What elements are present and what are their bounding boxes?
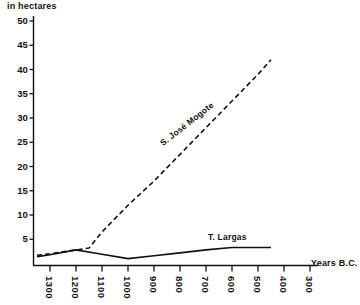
axes	[33, 16, 318, 266]
data-series	[37, 60, 271, 259]
series-line-s-jos-mogote	[37, 60, 271, 255]
series-line-t-largas	[37, 248, 271, 259]
x-axis-ticks	[50, 266, 310, 272]
chart-container: in hectares Years B.C. 51015202530354045…	[0, 0, 360, 305]
plot-area	[0, 0, 360, 305]
series-label-t-largas: T. Largas	[208, 232, 247, 242]
